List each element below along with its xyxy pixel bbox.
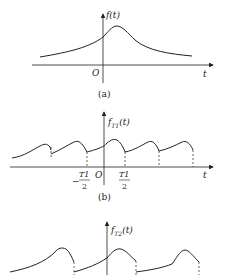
svg-text:T1: T1	[79, 170, 89, 179]
periodic-signal-curve	[10, 248, 199, 272]
svg-text:2: 2	[82, 182, 87, 191]
period-markers	[74, 261, 199, 275]
y-axis-label: fT1(t)	[107, 117, 130, 129]
origin-label: O	[95, 170, 103, 180]
tick-plus-half-period: T1 2	[119, 170, 130, 191]
period-markers	[51, 147, 193, 167]
signal-diagram: f(t) t O (a) fT1(t) t O − T1 2 T1 2 (b	[0, 0, 232, 275]
periodic-signal-curve	[12, 139, 193, 158]
origin-label: O	[92, 68, 100, 78]
x-axis-label: t	[203, 69, 207, 79]
caption-a: (a)	[98, 89, 110, 99]
caption-b: (b)	[98, 192, 111, 202]
panel-b: fT1(t) t O − T1 2 T1 2 (b)	[10, 112, 213, 202]
x-axis-label: t	[203, 170, 207, 180]
svg-text:T1: T1	[119, 170, 129, 179]
svg-text:2: 2	[122, 182, 127, 191]
y-axis-label: f(t)	[105, 10, 120, 20]
tick-minus-half-period: − T1 2	[72, 170, 90, 191]
y-axis-label: fT2(t)	[110, 225, 133, 237]
panel-c: fT2(t)	[10, 222, 199, 275]
panel-a: f(t) t O (a)	[32, 10, 213, 99]
signal-curve	[40, 26, 192, 57]
